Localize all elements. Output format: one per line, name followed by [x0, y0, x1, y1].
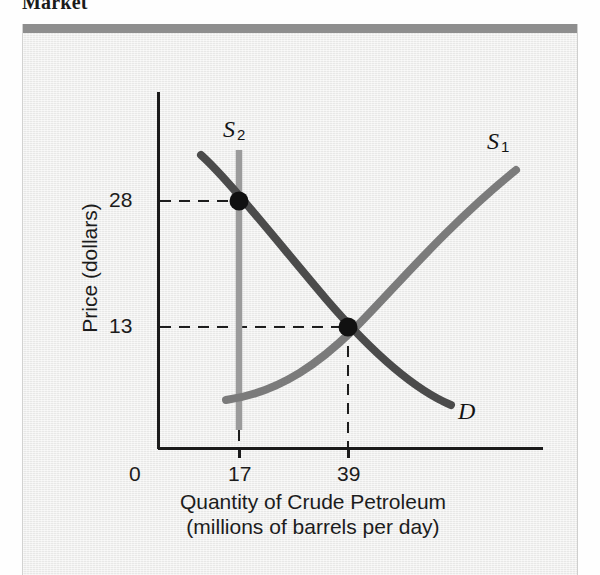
x-axis-label-line2: (millions of barrels per day)	[143, 515, 483, 540]
curve-label-s1-text: S	[487, 128, 499, 154]
curve-s1	[226, 170, 516, 400]
curve-label-s2-sub: 2	[237, 126, 245, 143]
marker-equilibrium-original	[339, 318, 358, 337]
curve-label-s2: S2	[223, 116, 243, 143]
x-axis-label-line1: Quantity of Crude Petroleum	[143, 490, 483, 515]
y-tick-label-13: 13	[109, 314, 132, 338]
leader-lines	[160, 201, 348, 448]
axes	[158, 92, 543, 449]
curve-label-s2-text: S	[223, 116, 235, 142]
x-axis-label: Quantity of Crude Petroleum (millions of…	[143, 490, 483, 540]
curve-label-d: D	[458, 398, 475, 425]
y-tick-label-28: 28	[109, 188, 132, 212]
x-tick-label-0: 0	[129, 462, 141, 486]
figure-panel: 28 13 0 17 39 Price (dollars) Quantity o…	[22, 24, 578, 575]
y-axis-label: Price (dollars)	[78, 173, 102, 363]
curve-label-s1: S1	[487, 128, 507, 155]
x-tick-label-39: 39	[337, 462, 360, 486]
curve-label-s1-sub: 1	[501, 138, 509, 155]
x-tick-label-17: 17	[228, 462, 251, 486]
marker-equilibrium-restricted	[230, 192, 249, 211]
figure-heading: Market	[22, 0, 88, 14]
